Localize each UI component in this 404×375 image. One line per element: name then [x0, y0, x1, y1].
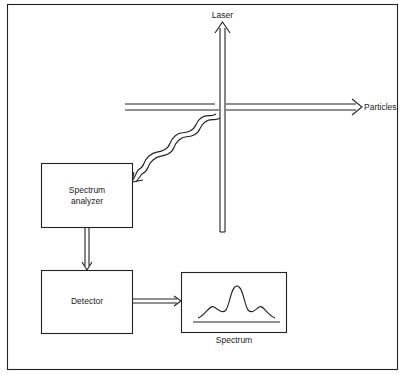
analyzer-to-detector-arrow — [82, 228, 92, 270]
laser-beam — [215, 22, 230, 232]
diagram-canvas: Laser Particles Spectrum analyzer Detect… — [0, 0, 404, 375]
detector-label: Detector — [71, 296, 103, 306]
laser-label: Laser — [212, 10, 233, 20]
spectrum-label: Spectrum — [216, 335, 252, 345]
spectrum-analyzer-label-line1: Spectrum — [69, 185, 105, 195]
particle-beam — [125, 99, 362, 115]
detector-to-spectrum-arrow — [133, 296, 181, 306]
particles-label: Particles — [364, 102, 397, 112]
spectrum-analyzer-label-line2: analyzer — [71, 196, 103, 206]
scattered-light-arrow — [132, 114, 220, 182]
spectrum-display-box — [182, 273, 287, 333]
